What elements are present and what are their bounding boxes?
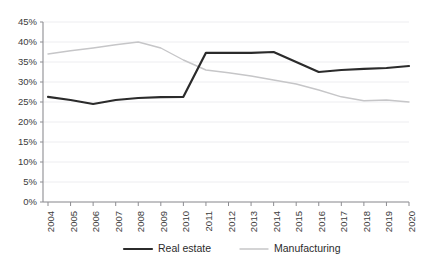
y-axis-tick-label: 10% [18, 156, 38, 167]
x-axis-tick-label: 2008 [135, 211, 146, 232]
x-axis-tick-label: 2011 [203, 211, 214, 231]
y-axis-tick-label: 20% [18, 116, 38, 127]
x-axis-tick-label: 2019 [383, 211, 394, 232]
y-axis-tick-label: 35% [18, 56, 38, 67]
x-axis-tick-label: 2012 [226, 211, 237, 232]
chart-canvas: 0%5%10%15%20%25%30%35%40%45% 20042005200… [0, 0, 425, 268]
x-axis-tick-label: 2004 [45, 211, 56, 232]
x-axis-tick-label: 2020 [406, 211, 417, 232]
x-axis-tick-label: 2016 [316, 211, 327, 232]
x-axis [43, 202, 409, 206]
x-axis-tick-label: 2017 [338, 211, 349, 232]
x-tick-labels: 2004200520062007200820092010201120122013… [45, 211, 417, 232]
x-axis-tick-label: 2013 [248, 211, 259, 232]
legend-label-manufacturing: Manufacturing [274, 242, 341, 254]
x-axis-tick-label: 2015 [293, 211, 304, 232]
x-axis-tick-label: 2018 [361, 211, 372, 232]
series-line-real-estate [48, 52, 409, 104]
x-axis-tick-label: 2005 [68, 211, 79, 232]
x-axis-tick-label: 2006 [90, 211, 101, 232]
series-line-manufacturing [48, 42, 409, 102]
y-axis [40, 22, 43, 202]
x-axis-tick-label: 2007 [113, 211, 124, 232]
x-axis-tick-label: 2014 [271, 211, 282, 232]
chart-legend: Real estateManufacturing [124, 242, 341, 254]
y-tick-labels: 0%5%10%15%20%25%30%35%40%45% [18, 16, 38, 207]
legend-label-real-estate: Real estate [158, 242, 211, 254]
y-axis-tick-label: 40% [18, 36, 38, 47]
y-axis-tick-label: 25% [18, 96, 38, 107]
line-chart: 0%5%10%15%20%25%30%35%40%45% 20042005200… [0, 0, 425, 268]
data-series [48, 42, 409, 104]
y-axis-tick-label: 45% [18, 16, 38, 27]
y-axis-tick-label: 30% [18, 76, 38, 87]
y-axis-tick-label: 15% [18, 136, 38, 147]
gridlines [43, 22, 409, 202]
x-axis-tick-label: 2010 [180, 211, 191, 232]
y-axis-tick-label: 0% [23, 196, 37, 207]
x-axis-tick-label: 2009 [158, 211, 169, 232]
y-axis-tick-label: 5% [23, 176, 37, 187]
